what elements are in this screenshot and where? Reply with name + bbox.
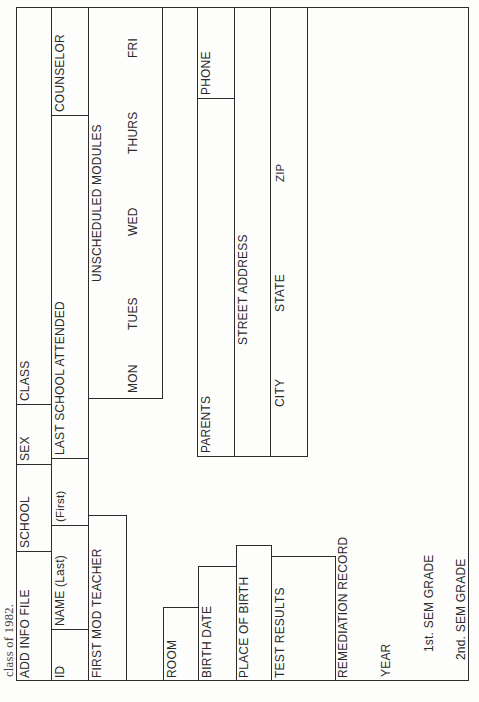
remediation-record-label: REMEDIATION RECORD bbox=[336, 537, 350, 678]
city-field[interactable]: CITY bbox=[273, 379, 287, 407]
first-mod-teacher-field[interactable]: FIRST MOD TEACHER bbox=[90, 548, 104, 678]
first-sem-grade-field[interactable]: 1st. SEM GRADE bbox=[422, 555, 436, 653]
row-divider bbox=[197, 98, 235, 99]
column-line bbox=[234, 7, 235, 456]
row-divider bbox=[51, 629, 89, 630]
phone-field[interactable]: PHONE bbox=[199, 51, 213, 95]
street-address-field[interactable]: STREET ADDRESS bbox=[236, 234, 250, 345]
form-border-top bbox=[16, 7, 469, 8]
column-line bbox=[162, 7, 163, 398]
form-border-right bbox=[468, 7, 469, 681]
sex-field[interactable]: SEX bbox=[18, 436, 32, 461]
add-info-file-label: ADD INFO FILE bbox=[18, 589, 32, 678]
year-field[interactable]: YEAR bbox=[379, 644, 393, 677]
day-tues-field[interactable]: TUES bbox=[126, 297, 140, 330]
column-line bbox=[270, 7, 271, 456]
form-caption: class of 1982. bbox=[2, 604, 16, 677]
form-border-bottom bbox=[16, 680, 469, 681]
zip-field[interactable]: ZIP bbox=[273, 164, 287, 183]
row-divider bbox=[16, 404, 52, 405]
column-line bbox=[271, 545, 272, 680]
birth-date-field[interactable]: BIRTH DATE bbox=[200, 606, 214, 678]
place-of-birth-field[interactable]: PLACE OF BIRTH bbox=[237, 577, 251, 678]
column-line bbox=[197, 7, 198, 456]
column-line bbox=[163, 607, 164, 680]
column-line bbox=[198, 566, 199, 680]
row-divider bbox=[16, 551, 52, 552]
modules-box-bottom bbox=[88, 398, 163, 399]
row-divider bbox=[51, 458, 89, 459]
birth-date-box-top bbox=[198, 566, 236, 567]
column-line bbox=[51, 7, 52, 681]
last-name-field[interactable]: NAME (Last) bbox=[53, 555, 67, 626]
column-line bbox=[88, 7, 89, 681]
address-box-bottom bbox=[197, 456, 308, 457]
second-sem-grade-field[interactable]: 2nd. SEM GRADE bbox=[454, 558, 468, 660]
unscheduled-modules-label: UNSCHEDULED MODULES bbox=[90, 124, 104, 282]
counselor-field[interactable]: COUNSELOR bbox=[53, 34, 67, 112]
test-results-field[interactable]: TEST RESULTS bbox=[273, 587, 287, 678]
id-field[interactable]: ID bbox=[53, 666, 67, 678]
day-fri-field[interactable]: FRI bbox=[126, 38, 140, 58]
column-line bbox=[307, 7, 308, 456]
row-divider bbox=[16, 464, 52, 465]
first-name-field[interactable]: (First) bbox=[53, 491, 67, 522]
place-of-birth-box-top bbox=[236, 545, 271, 546]
last-school-attended-field[interactable]: LAST SCHOOL ATTENDED bbox=[53, 301, 67, 455]
school-field[interactable]: SCHOOL bbox=[18, 496, 32, 548]
day-wed-field[interactable]: WED bbox=[126, 207, 140, 236]
row-divider bbox=[51, 525, 89, 526]
day-mon-field[interactable]: MON bbox=[126, 364, 140, 393]
class-field[interactable]: CLASS bbox=[18, 361, 32, 401]
room-field[interactable]: ROOM bbox=[165, 640, 179, 678]
first-mod-teacher-box-top bbox=[88, 515, 126, 516]
parents-field[interactable]: PARENTS bbox=[199, 396, 213, 453]
room-box-top bbox=[163, 607, 198, 608]
column-line bbox=[126, 515, 127, 680]
state-field[interactable]: STATE bbox=[273, 274, 287, 312]
form-border-left bbox=[16, 7, 17, 681]
day-thurs-field[interactable]: THURS bbox=[126, 112, 140, 154]
row-divider bbox=[51, 115, 89, 116]
student-info-form: class of 1982. ADD INFO FILE SCHOOL SEX … bbox=[0, 0, 479, 702]
test-results-box-top bbox=[271, 556, 335, 557]
